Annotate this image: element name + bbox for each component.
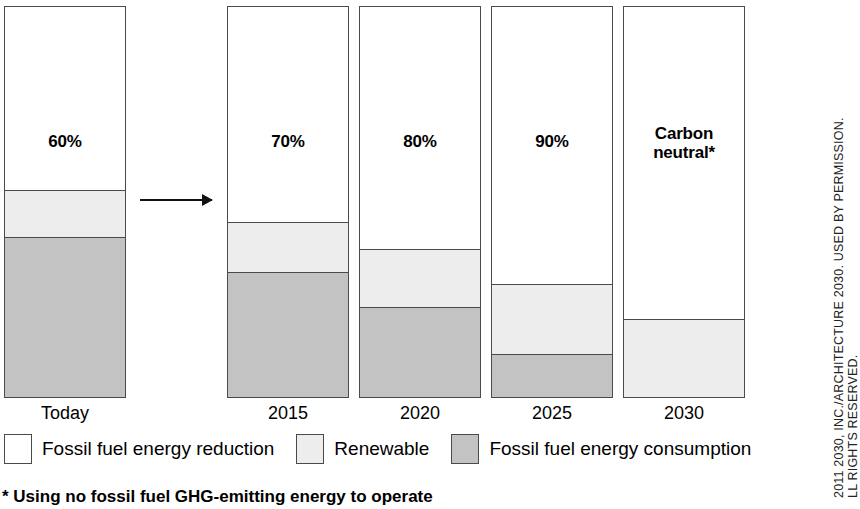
bar-2015-segment-renewable [228,222,348,273]
bar-2015-segment-fossil [228,272,348,397]
bar-2025-segment-fossil [492,354,612,397]
chart-legend: Fossil fuel energy reduction Renewable F… [4,430,804,468]
bar-today[interactable]: 60% [4,6,126,398]
bar-2030-axis-label: 2030 [623,402,745,424]
bar-today-segment-renewable [5,190,125,237]
bar-today-segment-reduction [5,7,125,190]
legend-item-fossil[interactable]: Fossil fuel energy consumption [451,434,773,464]
bar-2025-value-label: 90% [492,132,612,151]
bar-today-segment-fossil [5,237,125,397]
credit-line-permission: 2011 2030, INC./ARCHITECTURE 2030. USED … [832,117,846,498]
legend-label-reduction: Fossil fuel energy reduction [42,438,274,460]
bar-2020[interactable]: 80% [359,6,481,398]
bar-2015[interactable]: 70% [227,6,349,398]
legend-item-reduction[interactable]: Fossil fuel energy reduction [4,434,296,464]
legend-swatch-renewable-icon [296,434,324,464]
bar-2015-axis-label: 2015 [227,402,349,424]
bar-2030-segment-renewable [624,319,744,397]
bar-2015-segment-reduction [228,7,348,222]
legend-swatch-reduction-icon [4,434,32,464]
bar-2020-segment-renewable [360,249,480,308]
legend-label-renewable: Renewable [334,438,429,460]
transition-arrow [140,193,212,207]
bar-2030-value-label: Carbon neutral* [624,124,744,162]
legend-label-fossil: Fossil fuel energy consumption [489,438,751,460]
bar-2030-segment-reduction [624,7,744,319]
bar-today-value-label: 60% [5,132,125,151]
legend-swatch-fossil-icon [451,434,479,464]
legend-item-renewable[interactable]: Renewable [296,434,451,464]
bar-2020-segment-reduction [360,7,480,249]
bar-2030[interactable]: Carbon neutral* [623,6,745,398]
bar-2025-segment-renewable [492,284,612,354]
bar-2015-value-label: 70% [228,132,348,151]
chart-footnote: * Using no fossil fuel GHG-emitting ener… [2,486,433,508]
bar-2025-axis-label: 2025 [491,402,613,424]
bar-today-axis-label: Today [4,402,126,424]
bar-2025[interactable]: 90% [491,6,613,398]
arrow-head-icon [202,194,213,206]
credit-line-rights: LL RIGHTS RESERVED. [846,355,860,498]
bar-2020-segment-fossil [360,307,480,397]
bar-2020-axis-label: 2020 [359,402,481,424]
bar-2020-value-label: 80% [360,132,480,151]
